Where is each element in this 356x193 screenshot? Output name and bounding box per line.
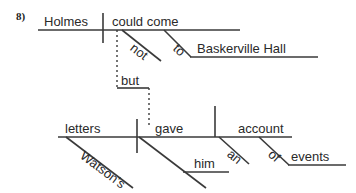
word-holmes: Holmes — [44, 15, 88, 28]
word-baskerville-hall: Baskerville Hall — [197, 42, 286, 55]
word-could-come: could come — [112, 15, 178, 28]
word-him: him — [194, 157, 215, 170]
sentence-diagram-canvas: 8) — [0, 0, 356, 193]
word-gave: gave — [155, 122, 183, 135]
word-events: events — [291, 150, 329, 163]
word-letters: letters — [65, 122, 100, 135]
word-but: but — [121, 74, 139, 87]
word-account: account — [238, 122, 284, 135]
